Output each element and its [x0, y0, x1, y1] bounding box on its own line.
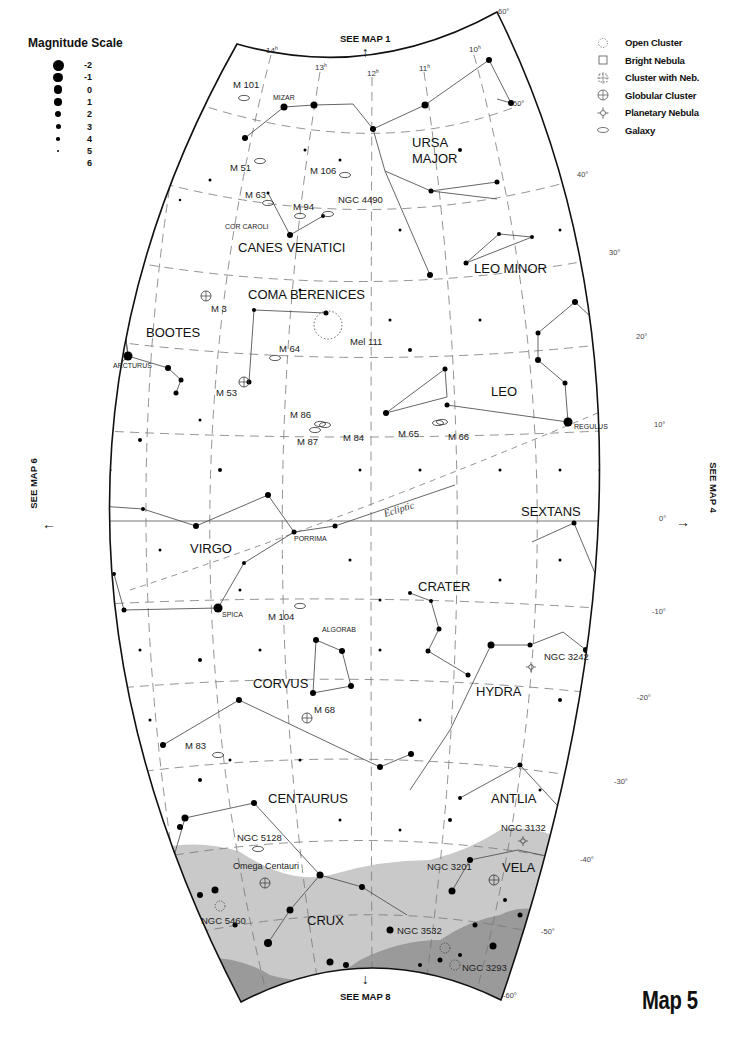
constellation-label: COMA BERENICES — [248, 287, 365, 302]
cluster-with-nebula-icon — [593, 72, 613, 84]
magnitude-row: 6 — [50, 157, 92, 169]
star-name-label: REGULUS — [574, 423, 608, 430]
see-map-8-label: SEE MAP 8 — [340, 991, 391, 1002]
constellation-label: MAJOR — [412, 151, 458, 166]
magnitude-row: 5 — [50, 145, 92, 157]
deep-sky-label: M 86 — [290, 409, 311, 420]
legend-item-open-cluster: Open Cluster — [593, 34, 699, 52]
arrow-left-icon: ← — [42, 516, 56, 532]
legend-item-galaxy: Galaxy — [593, 122, 699, 140]
legend-item-bright-nebula: Bright Nebula — [593, 52, 699, 70]
globular-cluster-icon — [593, 89, 613, 101]
deep-sky-label: NGC 3132 — [501, 822, 546, 833]
star-name-label: ARCTURUS — [113, 362, 152, 369]
deep-sky-object: Mel 111 — [350, 336, 382, 347]
magnitude-row: 4 — [50, 133, 92, 145]
magnitude-row: 2 — [50, 108, 92, 120]
magnitude-label: 2 — [76, 109, 92, 119]
see-map-1-link[interactable]: SEE MAP 1 ↑ — [340, 33, 391, 58]
deep-sky-label: NGC 5128 — [237, 832, 282, 843]
star-dot-icon — [57, 150, 59, 152]
arrow-down-icon: ↓ — [340, 973, 391, 985]
constellation-label: LEO — [491, 384, 517, 399]
constellation-label: CRUX — [307, 913, 344, 928]
legend-label: Galaxy — [625, 125, 655, 136]
constellation-label: ANTLIA — [491, 791, 537, 806]
deep-sky-label: NGC 3532 — [397, 925, 442, 936]
constellation-label: HYDRA — [476, 684, 522, 699]
deep-sky-label: M 66 — [448, 431, 469, 442]
legend-label: Planetary Nebula — [625, 107, 699, 118]
dec-label: 40° — [577, 170, 588, 179]
star-dot-icon — [54, 98, 62, 106]
constellation-label: CENTAURUS — [268, 791, 348, 806]
legend-item-cluster-with-nebula: Cluster with Neb. — [593, 69, 699, 87]
legend-label: Bright Nebula — [625, 55, 685, 66]
deep-sky-label: NGC 3242 — [544, 651, 589, 662]
deep-sky-label: NGC 3293 — [462, 962, 507, 973]
star-chart: 14h13h12h11h10h 60°50°40°30°20°10°0°-10°… — [0, 0, 747, 1050]
dec-label: 10° — [654, 420, 665, 429]
constellation-label: VELA — [502, 860, 536, 875]
magnitude-row: -1 — [50, 71, 92, 83]
deep-sky-label: M 104 — [268, 611, 294, 622]
constellation-label: CORVUS — [253, 676, 309, 691]
deep-sky-label: M 65 — [398, 428, 419, 439]
magnitude-label: 1 — [76, 97, 92, 107]
star-dot-icon — [53, 73, 63, 83]
legend-item-globular-cluster: Globular Cluster — [593, 87, 699, 105]
constellation-label: BOOTES — [146, 325, 201, 340]
star-dot-icon — [56, 137, 60, 141]
legend-label: Cluster with Neb. — [625, 72, 699, 83]
dec-label: -20° — [637, 693, 651, 702]
galaxy-icon — [593, 124, 613, 136]
see-map-1-label: SEE MAP 1 — [340, 33, 391, 44]
arrow-up-icon: ↑ — [340, 46, 391, 58]
deep-sky-label: M 101 — [233, 79, 259, 90]
magnitude-label: 3 — [76, 122, 92, 132]
dec-label: -10° — [652, 607, 666, 616]
see-map-6-label: SEE MAP 6 — [28, 449, 39, 519]
constellation-label: SEXTANS — [521, 504, 581, 519]
magnitude-label: 6 — [76, 158, 92, 168]
deep-sky-label: M 87 — [297, 436, 318, 447]
arrow-right-icon: → — [676, 514, 690, 530]
deep-sky-label: M 94 — [293, 201, 314, 212]
magnitude-label: 0 — [76, 85, 92, 95]
deep-sky-label: NGC 5460 — [201, 915, 246, 926]
map-title: Map 5 — [642, 985, 698, 1016]
constellation-label: LEO MINOR — [474, 261, 547, 276]
magnitude-row: -2 — [50, 59, 92, 71]
star-name-label: ALGORAB — [322, 626, 356, 633]
star-dot-icon — [53, 60, 64, 71]
deep-sky-label: Omega Centauri — [233, 861, 299, 871]
constellation-label: CRATER — [418, 579, 470, 594]
dec-label: -50° — [541, 927, 555, 936]
dec-label: 0° — [659, 514, 666, 523]
star-dot-icon — [55, 111, 62, 118]
dec-label: -40° — [580, 855, 594, 864]
magnitude-label: -2 — [76, 60, 92, 70]
magnitude-row: 3 — [50, 121, 92, 133]
deep-sky-label: M 51 — [230, 162, 251, 173]
constellation-label: VIRGO — [190, 541, 232, 556]
planetary-nebula-icon — [593, 107, 613, 119]
magnitude-label: 5 — [76, 146, 92, 156]
star-name-label: SPICA — [222, 611, 243, 618]
dec-label: 30° — [609, 248, 620, 257]
star-name-label: MIZAR — [273, 94, 295, 101]
deep-sky-label: M 63 — [245, 189, 266, 200]
dec-label: -60° — [503, 991, 517, 1000]
see-map-8-link[interactable]: ↓ SEE MAP 8 — [340, 995, 391, 1002]
star-name-label: PORRIMA — [294, 535, 327, 542]
magnitude-label: 4 — [76, 134, 92, 144]
deep-sky-label: M 3 — [211, 303, 227, 314]
magnitude-label: -1 — [76, 72, 92, 82]
deep-sky-label: M 106 — [310, 165, 336, 176]
constellation-label: CANES VENATICI — [238, 240, 345, 255]
bright-nebula-icon — [593, 54, 613, 66]
magnitude-scale-title: Magnitude Scale — [28, 36, 123, 50]
see-map-4-label: SEE MAP 4 — [708, 453, 719, 523]
constellation-label: URSA — [412, 135, 448, 150]
dec-label: 50° — [513, 99, 524, 108]
